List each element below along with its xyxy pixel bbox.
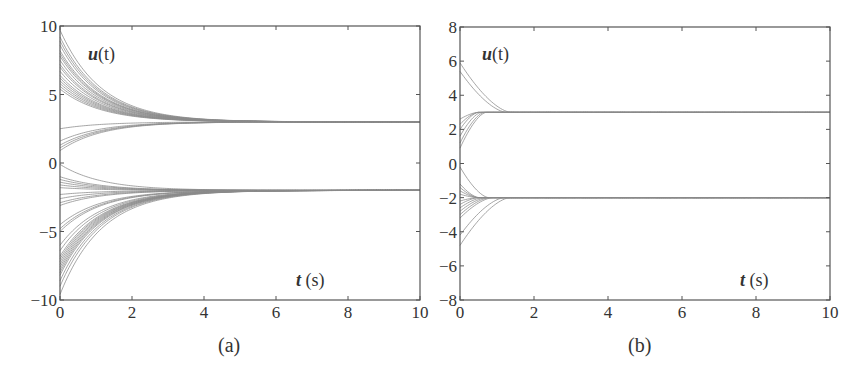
y-axis-label-b: u(t): [482, 44, 509, 65]
trajectory-line: [460, 184, 830, 198]
x-tick-label: 4: [200, 303, 209, 322]
x-tick-label: 6: [678, 303, 687, 322]
x-tick-label: 10: [822, 303, 839, 322]
trajectory-line: [60, 190, 420, 272]
trajectory-line: [460, 198, 830, 205]
y-tick-label: 0: [449, 155, 458, 174]
y-tick-label: −10: [30, 291, 57, 310]
trajectory-line: [460, 198, 830, 236]
x-tick-label: 6: [272, 303, 281, 322]
trajectory-line: [60, 190, 420, 275]
y-tick-label: −2: [439, 189, 457, 208]
y-axis-label-a: u(t): [88, 44, 115, 65]
trajectory-line: [60, 190, 420, 269]
y-tick-label: 8: [449, 18, 458, 37]
trajectory-line: [460, 112, 830, 148]
axes-frame: [60, 26, 420, 300]
panel-caption-b: (b): [628, 334, 651, 357]
trajectory-line: [60, 122, 420, 145]
trajectory-line: [460, 71, 830, 112]
trajectory-line: [460, 198, 830, 246]
y-tick-label: 0: [49, 154, 58, 173]
trajectory-line: [60, 122, 420, 129]
x-axis-label-a: t (s): [296, 270, 325, 291]
trajectory-line: [60, 122, 420, 148]
trajectory-line: [60, 190, 420, 280]
trajectories: [60, 30, 420, 294]
y-tick-label: −8: [439, 291, 457, 310]
trajectory-line: [460, 112, 830, 129]
trajectory-line: [460, 167, 830, 198]
trajectory-line: [460, 112, 830, 124]
trajectory-line: [60, 190, 420, 224]
trajectory-line: [460, 198, 830, 218]
trajectory-line: [460, 187, 830, 197]
y-tick-label: 6: [449, 52, 458, 71]
trajectory-line: [60, 122, 420, 141]
chart-panel-b: 0246810−8−6−4−202468 u(t) t (s) (b): [434, 0, 868, 370]
x-tick-label: 0: [456, 303, 465, 322]
trajectory-line: [460, 112, 830, 119]
axes-frame: [460, 27, 830, 300]
y-tick-label: 4: [449, 86, 458, 105]
trajectory-line: [460, 112, 830, 143]
trajectories: [460, 63, 830, 246]
x-tick-label: 8: [752, 303, 761, 322]
trajectory-line: [460, 191, 830, 198]
x-tick-label: 10: [412, 303, 429, 322]
y-tick-label: 10: [40, 17, 57, 36]
y-tick-label: −4: [439, 223, 458, 242]
trajectory-line: [60, 190, 420, 245]
y-tick-label: −6: [439, 257, 457, 276]
y-tick-label: 2: [449, 120, 458, 139]
x-tick-label: 8: [344, 303, 353, 322]
trajectory-line: [460, 194, 830, 197]
x-tick-label: 2: [128, 303, 137, 322]
trajectory-line: [60, 67, 420, 122]
chart-panel-a: 0246810−10−50510 u(t) t (s) (a): [0, 0, 434, 370]
y-tick-label: 5: [49, 86, 58, 105]
y-tick-label: −5: [39, 223, 57, 242]
plot-area-a: 0246810−10−50510: [0, 0, 434, 370]
trajectory-line: [60, 190, 420, 294]
trajectory-line: [460, 112, 830, 136]
trajectory-line: [60, 122, 420, 151]
x-tick-label: 2: [530, 303, 539, 322]
trajectory-line: [460, 198, 830, 215]
trajectory-line: [460, 63, 830, 112]
x-axis-label-b: t (s): [740, 270, 769, 291]
trajectory-line: [460, 198, 830, 212]
trajectory-line: [460, 198, 830, 208]
x-tick-label: 0: [56, 303, 65, 322]
panel-caption-a: (a): [218, 334, 240, 357]
trajectory-line: [460, 198, 830, 201]
trajectory-line: [60, 190, 420, 256]
x-tick-label: 4: [604, 303, 613, 322]
